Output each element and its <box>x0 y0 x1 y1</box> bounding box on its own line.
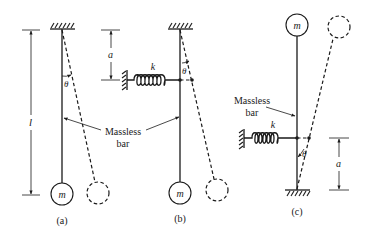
caption-c: (c) <box>291 206 302 218</box>
displaced-bar <box>62 30 95 182</box>
panel-b: a k θ m (b) <box>101 23 228 225</box>
spring <box>127 75 180 86</box>
angle-label: θ <box>64 79 69 89</box>
displaced-bar <box>180 30 214 179</box>
displaced-bar <box>297 39 333 189</box>
mass-label: m <box>176 188 183 199</box>
massless-bar-callout: Massless bar <box>64 117 179 149</box>
offset-dimension: a <box>329 138 349 190</box>
mass-label: m <box>293 20 300 31</box>
length-dimension: l <box>22 30 40 195</box>
massless-bar-label-line2: bar <box>117 138 130 149</box>
length-label: l <box>29 116 32 128</box>
massless-bar-label-line1: Massless <box>105 126 141 137</box>
displaced-mass <box>87 182 109 204</box>
massless-bar-label-line2: bar <box>246 107 259 118</box>
caption-b: (b) <box>174 213 186 225</box>
offset-dimension: a <box>101 30 120 80</box>
offset-label: a <box>336 158 341 169</box>
ceiling-support-icon <box>50 23 75 29</box>
angle-label: θ <box>182 66 187 76</box>
panel-a: l θ m (a) <box>22 23 109 227</box>
panel-c: m Massless bar k θ <box>234 14 350 218</box>
wall-support-icon <box>239 129 244 149</box>
spring <box>244 133 297 144</box>
angle-arc <box>182 61 189 63</box>
displaced-mass <box>206 179 228 201</box>
floor-support-icon <box>285 190 310 196</box>
mass-label: m <box>58 189 65 200</box>
ceiling-support-icon <box>168 23 193 29</box>
caption-a: (a) <box>56 215 67 227</box>
offset-label: a <box>108 49 113 60</box>
angle-label: θ <box>302 149 307 159</box>
displaced-mass <box>328 16 350 38</box>
spring-label: k <box>151 61 156 72</box>
angle-arc <box>62 75 71 76</box>
massless-bar-label-line1: Massless <box>234 95 270 106</box>
pendulum-figure: l θ m (a) Massless bar <box>0 0 366 237</box>
spring-label: k <box>271 119 276 130</box>
wall-support-icon <box>122 70 127 90</box>
